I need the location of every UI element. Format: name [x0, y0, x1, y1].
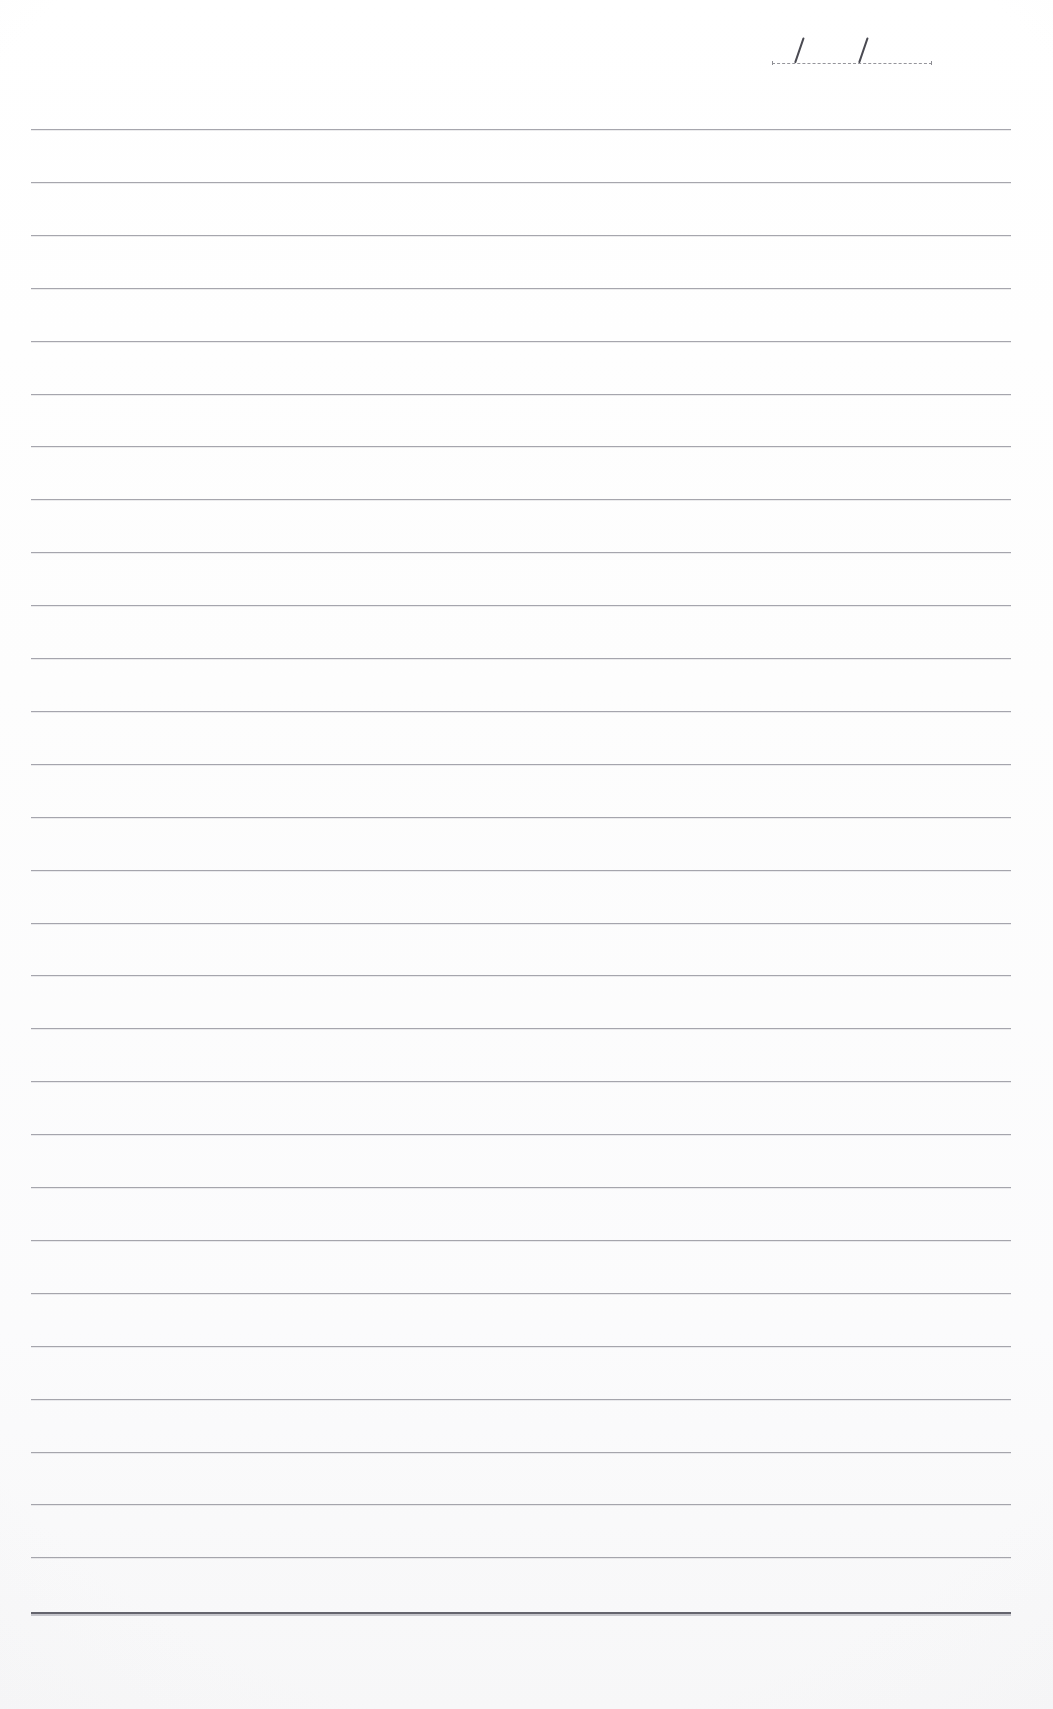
ruled-line: [31, 499, 1011, 500]
ruled-line: [31, 1187, 1011, 1188]
ruled-line: [31, 1399, 1011, 1400]
ruled-line: [31, 658, 1011, 659]
ruled-line: [31, 817, 1011, 818]
notebook-page: [0, 0, 1053, 1709]
ruled-line: [31, 1346, 1011, 1347]
ruled-line: [31, 711, 1011, 712]
ruled-line: [31, 394, 1011, 395]
ruled-line: [31, 182, 1011, 183]
footer-margin: [0, 1621, 1053, 1709]
ruled-line: [31, 1134, 1011, 1135]
ruled-line: [31, 1504, 1011, 1505]
ruled-line: [31, 341, 1011, 342]
ruled-lines: [0, 0, 1053, 1709]
ruled-line: [31, 235, 1011, 236]
ruled-line: [31, 1452, 1011, 1453]
ruled-line: [31, 764, 1011, 765]
ruled-line: [31, 870, 1011, 871]
ruled-line: [31, 1028, 1011, 1029]
ruled-line: [31, 1081, 1011, 1082]
ruled-line: [31, 129, 1011, 130]
ruled-line: [31, 975, 1011, 976]
closing-heavy-rule: [31, 1612, 1011, 1614]
ruled-line: [31, 1240, 1011, 1241]
ruled-line: [31, 605, 1011, 606]
ruled-line: [31, 1293, 1011, 1294]
ruled-line: [31, 923, 1011, 924]
ruled-line: [31, 1557, 1011, 1558]
ruled-line: [31, 552, 1011, 553]
ruled-line: [31, 288, 1011, 289]
ruled-line: [31, 446, 1011, 447]
